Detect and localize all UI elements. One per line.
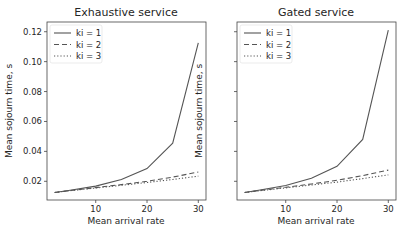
legend: ki = 1ki = 2ki = 3 — [240, 25, 292, 63]
x-axis-label: Mean arrival rate — [87, 216, 165, 226]
legend-label: ki = 1 — [76, 28, 101, 38]
x-tick-label: 30 — [193, 204, 204, 214]
legend-label: ki = 1 — [266, 28, 291, 38]
y-axis-label: Mean sojourn time, s — [4, 64, 14, 158]
legend-label: ki = 3 — [266, 51, 291, 61]
y-tick-label: 0.04 — [23, 146, 42, 156]
x-tick-label: 20 — [142, 204, 153, 214]
series-line-ki-1 — [55, 43, 199, 193]
x-tick-label: 10 — [90, 204, 101, 214]
figure: Exhaustive service Mean arrival rate Mea… — [0, 0, 406, 240]
y-tick-label: 0.02 — [23, 176, 42, 186]
legend-label: ki = 2 — [76, 40, 101, 50]
chart-title: Gated service — [278, 6, 354, 19]
x-tick-label: 20 — [332, 204, 343, 214]
legend: ki = 1ki = 2ki = 3 — [50, 25, 102, 63]
x-axis-label: Mean arrival rate — [277, 216, 355, 226]
y-tick-label: 0.10 — [23, 57, 42, 67]
y-tick-label: 0.08 — [23, 87, 42, 97]
x-tick-label: 10 — [280, 204, 291, 214]
chart-exhaustive-service: Exhaustive service Mean arrival rate Mea… — [4, 6, 206, 226]
legend-label: ki = 2 — [266, 40, 291, 50]
y-axis-label: Mean sojourn time, s — [194, 64, 204, 158]
chart-title: Exhaustive service — [74, 6, 178, 19]
legend-label: ki = 3 — [76, 51, 101, 61]
y-tick-label: 0.06 — [23, 116, 42, 126]
x-tick-label: 30 — [383, 204, 394, 214]
y-tick-label: 0.12 — [23, 27, 42, 37]
chart-gated-service: Gated service Mean arrival rate Mean soj… — [194, 6, 396, 226]
